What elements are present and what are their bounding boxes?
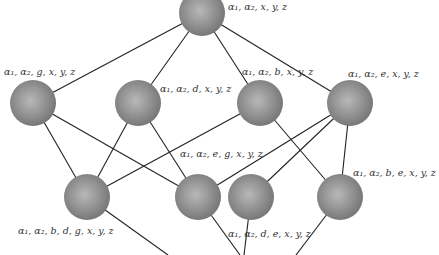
node-d <box>115 80 161 126</box>
node-b <box>237 80 283 126</box>
node-label-bdg: α₁, α₂, b, d, g, x, y, z <box>18 226 113 236</box>
node-label-de: α₁, α₂, d, e, x, y, z <box>228 229 311 239</box>
node-label-g: α₁, α₂, g, x, y, z <box>4 67 75 77</box>
node-label-b: α₁, α₂, b, x, y, z <box>242 67 313 77</box>
node-e <box>327 80 373 126</box>
node-g <box>10 80 56 126</box>
node-top <box>179 0 225 36</box>
node-be <box>317 174 363 220</box>
node-eg <box>175 174 221 220</box>
node-de <box>228 174 274 220</box>
node-bdg <box>64 174 110 220</box>
node-label-be: α₁, α₂, b, e, x, y, z <box>353 168 436 178</box>
node-label-d: α₁, α₂, d, x, y, z <box>160 84 231 94</box>
nodes-layer <box>10 0 373 220</box>
lattice-diagram <box>0 0 439 255</box>
node-label-top: α₁, α₂, x, y, z <box>228 2 287 12</box>
node-label-eg: α₁, α₂, e, g, x, y, z <box>180 149 263 159</box>
node-label-e: α₁, α₂, e, x, y, z <box>348 69 419 79</box>
